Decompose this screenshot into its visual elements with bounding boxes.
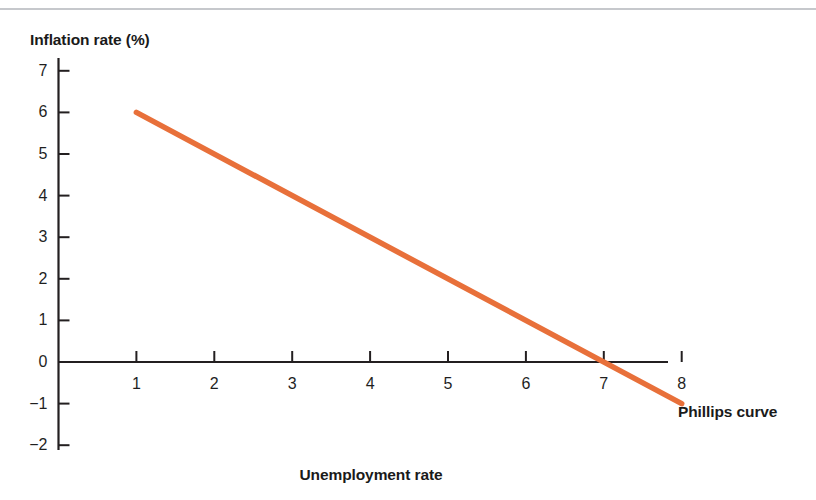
y-tick-label: 1 [39,311,48,329]
x-tick-label: 5 [444,375,453,393]
y-tick-marks [59,71,70,445]
x-tick-label: 4 [366,375,375,393]
phillips-curve-line [136,112,681,403]
phillips-curve-figure: Inflation rate (%) 76543210−1−212345678 … [0,0,816,500]
x-tick-label: 2 [210,375,219,393]
x-tick-label: 6 [521,375,530,393]
y-tick-label: 7 [39,62,48,80]
y-tick-label: 4 [39,187,48,205]
y-tick-label: −1 [29,395,47,413]
x-tick-label: 1 [132,375,141,393]
y-tick-label: 6 [39,103,48,121]
x-tick-label: 7 [599,375,608,393]
y-tick-label: −2 [29,436,47,454]
y-tick-label: 5 [39,145,48,163]
x-tick-label: 8 [677,375,686,393]
y-tick-label: 2 [39,270,48,288]
y-tick-label: 3 [39,228,48,246]
x-tick-label: 3 [288,375,297,393]
x-axis-title: Unemployment rate [0,466,742,484]
data-series-group [136,112,681,403]
y-tick-label: 0 [39,353,48,371]
chart-plot-area [0,0,816,500]
phillips-curve-annotation: Phillips curve [678,403,777,421]
